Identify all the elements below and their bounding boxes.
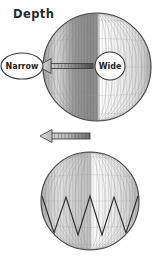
top-arrow-shaft-texture <box>50 64 93 69</box>
callout-narrow[interactable]: Narrow <box>1 53 43 79</box>
bottom-arrow-shaft-texture <box>51 133 90 139</box>
callout-narrow-label: Narrow <box>6 62 39 71</box>
diagram-title: Depth <box>13 7 54 21</box>
diagram-canvas: Depth <box>0 0 153 259</box>
callout-wide[interactable]: Wide <box>95 52 125 80</box>
callout-wide-label: Wide <box>99 62 122 71</box>
bottom-sphere <box>41 152 139 250</box>
depth-diagram: Depth <box>0 0 153 259</box>
